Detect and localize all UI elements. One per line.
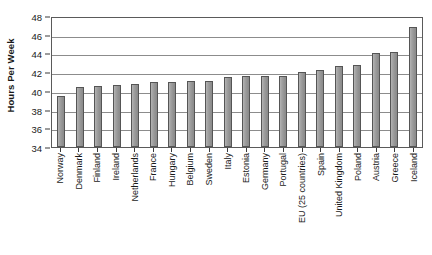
bar[interactable] [150, 82, 158, 147]
bar[interactable] [94, 86, 102, 147]
x-axis-category-label: United Kingdom [335, 153, 344, 217]
bar[interactable] [57, 96, 65, 147]
bar-slot [182, 18, 201, 147]
x-axis-tick-mark [209, 148, 210, 152]
x-axis-tick-slot [51, 148, 70, 152]
bar[interactable] [261, 76, 269, 147]
bar-slot [293, 18, 312, 147]
x-axis-category-label: Greece [390, 153, 399, 183]
x-axis-tick-mark [339, 148, 340, 152]
bar-slot [330, 18, 349, 147]
x-axis-tick-marks [51, 148, 423, 152]
x-axis-category-label: Denmark [74, 153, 83, 190]
y-axis-tick-labels: 4846444240383634 [20, 11, 44, 153]
bar-slot [219, 18, 238, 147]
x-axis-tick-mark [302, 148, 303, 152]
x-axis-category-label: Germany [260, 153, 269, 190]
bar[interactable] [168, 82, 176, 148]
x-axis-label-slot: Hungary [163, 153, 182, 253]
x-axis-category-label: Austria [372, 153, 381, 181]
x-axis-category-label: Finland [93, 153, 102, 183]
y-axis-tick-label: 46 [31, 30, 42, 41]
bar[interactable] [279, 76, 287, 147]
bar-slot [163, 18, 182, 147]
x-axis-category-label: Estonia [242, 153, 251, 183]
x-axis-tick-mark [394, 148, 395, 152]
x-axis-tick-slot [144, 148, 163, 152]
x-axis-category-label: France [149, 153, 158, 181]
x-axis-label-slot: Poland [349, 153, 368, 253]
bar[interactable] [372, 53, 380, 147]
x-axis-tick-mark [264, 148, 265, 152]
bars-layer [52, 18, 422, 147]
bar[interactable] [298, 72, 306, 147]
bar[interactable] [242, 76, 250, 147]
x-axis-label-slot: Spain [311, 153, 330, 253]
bar-slot [311, 18, 330, 147]
x-axis-category-label: Iceland [409, 153, 418, 182]
x-axis-label-slot: Belgium [181, 153, 200, 253]
x-axis-tick-mark [413, 148, 414, 152]
x-axis-label-slot: Netherlands [125, 153, 144, 253]
y-axis-tick-label: 42 [31, 68, 42, 79]
y-axis-tick-mark [45, 73, 50, 74]
x-axis-label-slot: Finland [88, 153, 107, 253]
y-axis-tick-label: 34 [31, 143, 42, 154]
x-axis-label-slot: Germany [256, 153, 275, 253]
x-axis-tick-slot [218, 148, 237, 152]
y-axis-title-text: Hours Per Week [5, 38, 16, 112]
x-axis-label-slot: France [144, 153, 163, 253]
x-axis-tick-mark [78, 148, 79, 152]
bar[interactable] [205, 81, 213, 147]
bar[interactable] [76, 87, 84, 147]
bar[interactable] [409, 27, 417, 147]
x-axis-category-label: Spain [316, 153, 325, 176]
x-axis-label-slot: Austria [367, 153, 386, 253]
x-axis-tick-mark [320, 148, 321, 152]
y-axis-tick-mark [45, 35, 50, 36]
x-axis-tick-mark [227, 148, 228, 152]
x-axis-tick-slot [237, 148, 256, 152]
bar-slot [385, 18, 404, 147]
y-axis-tick-mark [45, 148, 50, 149]
x-axis-tick-mark [97, 148, 98, 152]
x-axis-tick-mark [376, 148, 377, 152]
x-axis-tick-slot [256, 148, 275, 152]
x-axis-tick-slot [163, 148, 182, 152]
y-axis-tick-label: 36 [31, 124, 42, 135]
x-axis-tick-slot [367, 148, 386, 152]
bar[interactable] [353, 65, 361, 147]
x-axis-label-slot: Iceland [404, 153, 423, 253]
y-axis-tick-mark [45, 129, 50, 130]
y-axis-tick-mark [45, 17, 50, 18]
bar-slot [348, 18, 367, 147]
bar-slot [237, 18, 256, 147]
bar-slot [52, 18, 71, 147]
x-axis-category-label: Hungary [167, 153, 176, 187]
bar[interactable] [113, 85, 121, 147]
x-axis-tick-slot [107, 148, 126, 152]
x-axis-tick-mark [171, 148, 172, 152]
bar[interactable] [390, 52, 398, 147]
bar[interactable] [187, 81, 195, 147]
x-axis-category-label: Norway [56, 153, 65, 184]
x-axis-label-slot: Italy [218, 153, 237, 253]
bar[interactable] [316, 70, 324, 147]
bar-slot [404, 18, 423, 147]
bar[interactable] [224, 77, 232, 147]
x-axis-tick-slot [386, 148, 405, 152]
x-axis-label-slot: United Kingdom [330, 153, 349, 253]
bar[interactable] [335, 66, 343, 147]
x-axis-label-slot: Denmark [70, 153, 89, 253]
x-axis-tick-slot [181, 148, 200, 152]
x-axis-tick-mark [283, 148, 284, 152]
x-axis-tick-mark [246, 148, 247, 152]
bar-slot [367, 18, 386, 147]
bar-chart: Hours Per Week 4846444240383634 NorwayDe… [0, 0, 432, 255]
y-axis-tick-mark [45, 91, 50, 92]
x-axis-category-label: Portugal [279, 153, 288, 187]
x-axis-category-label: Ireland [112, 153, 121, 181]
bar-slot [274, 18, 293, 147]
bar-slot [71, 18, 90, 147]
bar[interactable] [131, 84, 139, 147]
